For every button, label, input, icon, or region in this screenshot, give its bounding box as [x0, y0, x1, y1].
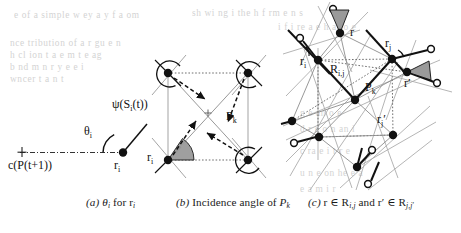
panel-c-pk-label: Pk [365, 80, 376, 95]
panel-c-node-rprime [403, 68, 411, 76]
panel-a-center-tick [18, 147, 27, 157]
panel-c-node-rj [388, 55, 396, 63]
panel-b-node-tr [244, 69, 252, 77]
figure-container: e of a simple w ey a y f a om sh wi ng i… [0, 0, 461, 233]
panel-c-ri-label: ri [300, 54, 306, 69]
panel-c-node-bl [315, 133, 323, 141]
panel-a-theta-arc [103, 135, 114, 153]
caption-panel-b: (b) Incidence angle of Pk [176, 196, 290, 216]
caption-panel-c: (c) r ∈ Ri,j and r′ ∈ Rj,j′ [308, 196, 414, 216]
panel-c-rjprime-label: rj′ [377, 112, 386, 127]
panel-b-center-tick [205, 110, 212, 117]
panel-b-node-tl [164, 69, 172, 77]
panel-c-node-center [351, 96, 359, 104]
panel-b [152, 55, 266, 178]
panel-a [18, 124, 148, 157]
panel-a-theta-label: θi [84, 124, 92, 139]
panel-c [281, 2, 452, 190]
panel-c-rj-label: rj [385, 36, 391, 51]
panel-a-center-label: c(P(t+1)) [8, 158, 52, 173]
panel-a-ri-label: ri [114, 158, 120, 173]
panel-b-incidence-wedge [168, 139, 194, 161]
panel-c-rprime-label: r′ [404, 76, 411, 91]
panel-b-node-br [244, 156, 252, 164]
panel-c-node-ri [314, 56, 322, 64]
panel-b-node-ri [164, 156, 172, 164]
panel-c-r-label: r [350, 25, 354, 40]
caption-panel-a: (a) θi for ri [86, 196, 135, 216]
panel-c-node-bottom [353, 163, 361, 171]
panel-a-heading-ray [123, 124, 147, 153]
panel-c-region-label: Ri,j [330, 62, 344, 77]
panel-b-pk-label: Pk [226, 109, 237, 124]
panel-c-node-left [288, 117, 296, 125]
panel-c-node-r [336, 29, 344, 37]
panel-b-ri-label: ri [147, 150, 153, 165]
panel-c-node-rjprime [389, 131, 397, 139]
panel-a-psi-label: ψ(Si(t)) [112, 97, 148, 112]
